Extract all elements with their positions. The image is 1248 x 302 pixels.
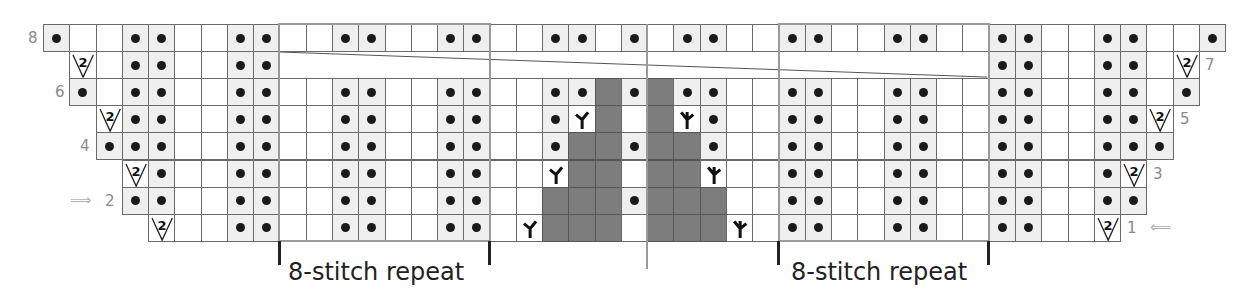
- knit-cell: [1041, 214, 1068, 242]
- purl-dot-icon: [157, 88, 166, 97]
- purl-cell: [122, 51, 149, 79]
- svg-text:2: 2: [1182, 55, 1191, 70]
- purl-dot-icon: [709, 142, 718, 151]
- purl-cell: [253, 24, 280, 52]
- purl-dot-icon: [1103, 115, 1112, 124]
- repeat-label: 8-stitch repeat: [791, 258, 967, 286]
- purl-dot-icon: [683, 34, 692, 43]
- purl-cell: [621, 132, 648, 160]
- purl-cell: [253, 214, 280, 242]
- no-stitch-cell: [568, 187, 595, 215]
- knit-cell: [621, 160, 648, 188]
- knit-cell: [1068, 132, 1095, 160]
- knit-cell: [1041, 24, 1068, 52]
- purl-cell: [542, 105, 569, 133]
- purl-dot-icon: [157, 61, 166, 70]
- no-stitch-cell: [542, 187, 569, 215]
- knit-cell: [752, 105, 779, 133]
- knit-cell: [516, 187, 543, 215]
- purl-cell: [989, 105, 1016, 133]
- knit-cell: [621, 214, 648, 242]
- purl-cell: [568, 78, 595, 106]
- increase-cell: 2: [1146, 105, 1173, 133]
- purl-cell: [1120, 187, 1147, 215]
- purl-dot-icon: [78, 88, 87, 97]
- purl-dot-icon: [998, 61, 1007, 70]
- right-decrease-cell: [673, 105, 700, 133]
- knit-cell: [201, 24, 228, 52]
- purl-cell: [227, 214, 254, 242]
- repeat-bracket-left: [777, 241, 780, 265]
- increase-2-icon: 2: [1174, 52, 1200, 79]
- svg-text:2: 2: [1103, 218, 1112, 233]
- knit-cell: [1068, 105, 1095, 133]
- knit-cell: [516, 24, 543, 52]
- left-decrease-cell: [542, 160, 569, 188]
- purl-dot-icon: [1103, 142, 1112, 151]
- purl-cell: [253, 187, 280, 215]
- purl-cell: [1015, 214, 1042, 242]
- purl-dot-icon: [236, 88, 245, 97]
- increase-2-icon: 2: [1121, 161, 1147, 188]
- left-arrow-icon: ⟸: [1150, 218, 1172, 236]
- knit-cell: [69, 24, 96, 52]
- purl-cell: [1120, 78, 1147, 106]
- svg-text:2: 2: [79, 55, 88, 70]
- purl-dot-icon: [157, 196, 166, 205]
- purl-dot-icon: [1129, 34, 1138, 43]
- purl-cell: [989, 24, 1016, 52]
- purl-cell: [989, 51, 1016, 79]
- knit-cell: [201, 160, 228, 188]
- purl-dot-icon: [262, 196, 271, 205]
- purl-dot-icon: [1024, 142, 1033, 151]
- purl-dot-icon: [131, 61, 140, 70]
- knit-cell: [647, 24, 674, 52]
- knit-cell: [1041, 78, 1068, 106]
- purl-dot-icon: [1129, 115, 1138, 124]
- purl-cell: [1015, 187, 1042, 215]
- purl-dot-icon: [236, 142, 245, 151]
- knit-cell: [752, 187, 779, 215]
- knit-cell: [490, 214, 517, 242]
- purl-cell: [1120, 132, 1147, 160]
- knit-cell: [174, 160, 201, 188]
- purl-cell: [227, 24, 254, 52]
- purl-dot-icon: [998, 142, 1007, 151]
- purl-dot-icon: [262, 142, 271, 151]
- no-stitch-cell: [647, 132, 674, 160]
- knit-cell: [174, 187, 201, 215]
- repeat-bracket-right: [987, 241, 990, 265]
- purl-dot-icon: [262, 169, 271, 178]
- purl-dot-icon: [630, 34, 639, 43]
- knit-cell: [516, 78, 543, 106]
- increase-2-icon: 2: [149, 215, 175, 242]
- knit-cell: [752, 132, 779, 160]
- knit-cell: [1041, 105, 1068, 133]
- left-decrease-icon: [517, 215, 543, 242]
- knit-cell: [595, 24, 622, 52]
- purl-dot-icon: [157, 142, 166, 151]
- purl-cell: [1094, 132, 1121, 160]
- purl-cell: [96, 132, 123, 160]
- right-decrease-cell: [726, 214, 753, 242]
- knit-cell: [201, 214, 228, 242]
- right-decrease-cell: [700, 160, 727, 188]
- purl-cell: [148, 187, 175, 215]
- purl-cell: [227, 132, 254, 160]
- purl-dot-icon: [998, 115, 1007, 124]
- increase-cell: 2: [1094, 214, 1121, 242]
- svg-text:2: 2: [131, 164, 140, 179]
- purl-cell: [253, 105, 280, 133]
- purl-cell: [1094, 24, 1121, 52]
- knit-cell: [1041, 187, 1068, 215]
- row-number-label: 4: [80, 137, 90, 155]
- purl-dot-icon: [236, 196, 245, 205]
- purl-dot-icon: [709, 115, 718, 124]
- left-decrease-cell: [516, 214, 543, 242]
- increase-2-icon: 2: [1147, 106, 1173, 133]
- right-arrow-icon: ⟹: [70, 191, 92, 209]
- purl-cell: [1094, 160, 1121, 188]
- svg-text:2: 2: [1156, 109, 1165, 124]
- purl-cell: [1094, 51, 1121, 79]
- increase-2-icon: 2: [97, 106, 123, 133]
